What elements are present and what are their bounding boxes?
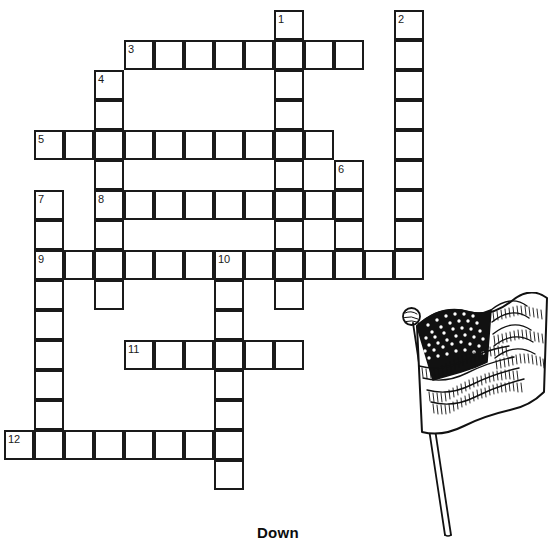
crossword-cell[interactable]: [394, 10, 424, 40]
crossword-cell[interactable]: [154, 40, 184, 70]
crossword-cell[interactable]: [34, 370, 64, 400]
crossword-cell[interactable]: [274, 220, 304, 250]
crossword-cell[interactable]: [394, 160, 424, 190]
crossword-cell[interactable]: [94, 160, 124, 190]
crossword-cell[interactable]: [274, 190, 304, 220]
crossword-cell[interactable]: [64, 250, 94, 280]
crossword-cell[interactable]: [274, 250, 304, 280]
crossword-cell[interactable]: [94, 70, 124, 100]
crossword-cell[interactable]: [274, 280, 304, 310]
crossword-cell[interactable]: [184, 130, 214, 160]
crossword-cell[interactable]: [274, 100, 304, 130]
crossword-cell[interactable]: [124, 190, 154, 220]
crossword-cell[interactable]: [94, 130, 124, 160]
crossword-cell[interactable]: [334, 160, 364, 190]
crossword-cell[interactable]: [244, 130, 274, 160]
crossword-cell[interactable]: [364, 250, 394, 280]
crossword-cell[interactable]: [34, 250, 64, 280]
crossword-cell[interactable]: [154, 190, 184, 220]
crossword-cell[interactable]: [394, 40, 424, 70]
crossword-cell[interactable]: [94, 100, 124, 130]
crossword-cell[interactable]: [34, 430, 64, 460]
crossword-cell[interactable]: [304, 130, 334, 160]
crossword-cell[interactable]: [124, 130, 154, 160]
crossword-cell[interactable]: [94, 190, 124, 220]
crossword-cell[interactable]: [64, 430, 94, 460]
crossword-cell[interactable]: [4, 430, 34, 460]
crossword-cell[interactable]: [394, 100, 424, 130]
down-section-heading: Down: [0, 524, 556, 541]
crossword-cell[interactable]: [244, 340, 274, 370]
crossword-cell[interactable]: [154, 250, 184, 280]
crossword-cell[interactable]: [274, 70, 304, 100]
crossword-cell[interactable]: [34, 340, 64, 370]
crossword-cell[interactable]: [214, 310, 244, 340]
crossword-cell[interactable]: [214, 400, 244, 430]
crossword-cell[interactable]: [304, 190, 334, 220]
crossword-cell[interactable]: [214, 370, 244, 400]
crossword-cell[interactable]: [184, 190, 214, 220]
crossword-cell[interactable]: [124, 40, 154, 70]
crossword-cell[interactable]: [394, 70, 424, 100]
crossword-cell[interactable]: [394, 190, 424, 220]
crossword-cell[interactable]: [274, 40, 304, 70]
crossword-cell[interactable]: [214, 340, 244, 370]
crossword-cell[interactable]: [304, 40, 334, 70]
crossword-cell[interactable]: [184, 250, 214, 280]
crossword-cell[interactable]: [334, 250, 364, 280]
crossword-cell[interactable]: [214, 190, 244, 220]
crossword-cell[interactable]: [34, 220, 64, 250]
crossword-cell[interactable]: [94, 220, 124, 250]
crossword-cell[interactable]: [214, 250, 244, 280]
crossword-cell[interactable]: [214, 460, 244, 490]
crossword-cell[interactable]: [154, 130, 184, 160]
crossword-cell[interactable]: [244, 40, 274, 70]
crossword-cell[interactable]: [34, 310, 64, 340]
crossword-cell[interactable]: [94, 430, 124, 460]
crossword-cell[interactable]: [64, 130, 94, 160]
crossword-cell[interactable]: [94, 250, 124, 280]
crossword-cell[interactable]: [274, 10, 304, 40]
crossword-cell[interactable]: [124, 430, 154, 460]
crossword-cell[interactable]: [334, 190, 364, 220]
crossword-cell[interactable]: [244, 250, 274, 280]
crossword-cell[interactable]: [334, 220, 364, 250]
crossword-cell[interactable]: [184, 340, 214, 370]
crossword-cell[interactable]: [94, 280, 124, 310]
crossword-cell[interactable]: [394, 130, 424, 160]
american-flag-illustration: [392, 292, 556, 540]
crossword-cell[interactable]: [34, 190, 64, 220]
crossword-cell[interactable]: [154, 340, 184, 370]
crossword-puzzle-page: 123456789101112: [0, 0, 556, 553]
crossword-cell[interactable]: [394, 220, 424, 250]
crossword-cell[interactable]: [34, 280, 64, 310]
crossword-cell[interactable]: [214, 40, 244, 70]
crossword-cell[interactable]: [334, 40, 364, 70]
crossword-cell[interactable]: [214, 280, 244, 310]
crossword-cell[interactable]: [34, 130, 64, 160]
crossword-cell[interactable]: [244, 190, 274, 220]
crossword-cell[interactable]: [124, 340, 154, 370]
crossword-cell[interactable]: [124, 250, 154, 280]
crossword-cell[interactable]: [214, 430, 244, 460]
crossword-cell[interactable]: [394, 250, 424, 280]
crossword-cell[interactable]: [304, 250, 334, 280]
crossword-cell[interactable]: [274, 130, 304, 160]
crossword-cell[interactable]: [274, 340, 304, 370]
crossword-cell[interactable]: [214, 130, 244, 160]
crossword-cell[interactable]: [34, 400, 64, 430]
crossword-cell[interactable]: [184, 430, 214, 460]
crossword-cell[interactable]: [184, 40, 214, 70]
crossword-cell[interactable]: [274, 160, 304, 190]
crossword-cell[interactable]: [154, 430, 184, 460]
